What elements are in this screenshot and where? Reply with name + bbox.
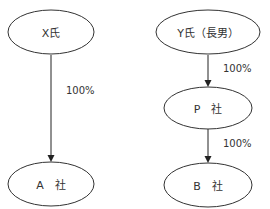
- edge-label-p-b: 100%: [223, 138, 252, 149]
- edge-y-to-p: 100%: [205, 55, 252, 87]
- node-y: Y氏（長男）: [156, 10, 260, 54]
- node-label-a: A 社: [36, 178, 66, 192]
- edge-x-to-a: 100%: [48, 55, 95, 162]
- node-p: P 社: [164, 87, 252, 129]
- node-a: A 社: [8, 162, 94, 206]
- arrow-head-icon: [205, 156, 212, 163]
- node-b: B 社: [164, 163, 252, 207]
- node-label-y: Y氏（長男）: [176, 27, 239, 40]
- node-label-b: B 社: [193, 179, 223, 193]
- node-label-x: X氏: [42, 27, 61, 40]
- arrow-head-icon: [205, 80, 212, 87]
- node-label-p: P 社: [194, 102, 223, 116]
- ownership-diagram: 100% 100% 100% X氏 A 社 Y氏（長男） P 社 B 社: [0, 0, 270, 209]
- edge-label-x-a: 100%: [66, 85, 95, 96]
- edge-label-y-p: 100%: [223, 63, 252, 74]
- node-x: X氏: [8, 10, 94, 54]
- arrow-head-icon: [48, 155, 55, 162]
- edge-p-to-b: 100%: [205, 129, 252, 163]
